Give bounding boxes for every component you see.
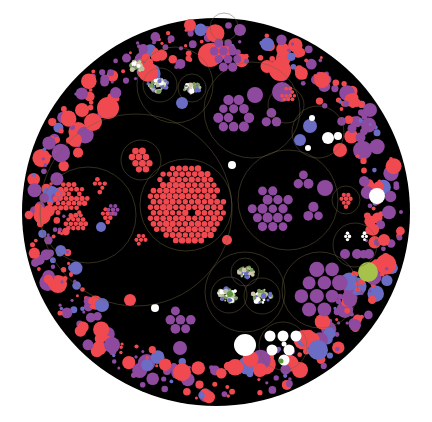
red-dot [214, 199, 220, 205]
outer-bubble [42, 217, 47, 222]
red-dot [284, 87, 288, 91]
white-bubble [265, 331, 276, 342]
outer-bubble [151, 32, 161, 42]
red-dot [208, 210, 214, 216]
outer-bubble [194, 24, 207, 37]
outer-bubble [291, 64, 297, 70]
outer-bubble [349, 93, 358, 102]
white-bubble [309, 115, 315, 121]
red-dot [136, 166, 142, 172]
outer-bubble [348, 124, 357, 133]
outer-bubble [227, 359, 244, 376]
outer-bubble [76, 294, 79, 297]
red-dot [189, 166, 194, 171]
outer-bubble [288, 377, 292, 381]
red-dot [160, 193, 166, 199]
outer-bubble [188, 30, 194, 36]
red-dot [290, 97, 294, 101]
purple-dot [278, 204, 287, 213]
red-dot [195, 210, 201, 216]
red-dot [201, 188, 207, 194]
mixed-dot [156, 89, 161, 94]
red-dot [101, 212, 105, 216]
green-bubble [279, 359, 284, 364]
white-dot [348, 235, 352, 239]
outer-bubble [54, 217, 61, 224]
red-dot [79, 196, 84, 201]
mixed-dot [234, 297, 236, 299]
red-dot [76, 217, 81, 222]
red-dot [72, 182, 77, 187]
purple-dot [318, 303, 332, 317]
red-dot [141, 234, 145, 238]
loose-bubble [378, 234, 390, 246]
purple-dot [219, 47, 228, 56]
red-dot [77, 192, 82, 197]
purple-dot [109, 204, 113, 208]
loose-bubble [95, 298, 109, 312]
outer-bubble [121, 69, 125, 73]
red-dot [201, 177, 207, 183]
red-dot [179, 204, 185, 210]
purple-dot [239, 122, 249, 132]
red-dot [195, 165, 201, 171]
red-dot [170, 232, 176, 238]
purple-dot [107, 208, 111, 212]
red-dot [179, 215, 185, 221]
mixed-dot [196, 84, 198, 86]
loose-bubble [104, 337, 120, 353]
purple-dot [234, 95, 244, 105]
outer-bubble [58, 310, 63, 315]
outer-bubble [265, 381, 268, 384]
purple-dot [113, 204, 117, 208]
outer-bubble [374, 129, 381, 136]
purple-dot [233, 55, 241, 63]
outer-bubble [335, 318, 338, 321]
red-dot [63, 205, 68, 210]
red-dot [176, 210, 181, 215]
red-dot [205, 216, 210, 221]
red-dot [154, 215, 160, 221]
purple-dot [219, 122, 228, 131]
red-dot [68, 221, 73, 226]
red-dot [154, 194, 159, 199]
red-dot [170, 199, 176, 205]
white-dot [365, 235, 368, 238]
outer-bubble [319, 59, 323, 63]
purple-dot [224, 55, 233, 64]
white-bubble [291, 331, 302, 342]
red-dot [192, 193, 198, 199]
purple-dot [309, 262, 324, 277]
red-dot [79, 213, 83, 217]
purple-dot [229, 122, 239, 132]
outer-bubble [112, 359, 117, 364]
red-dot [80, 187, 84, 191]
outer-bubble [321, 363, 327, 369]
outer-bubble [117, 367, 120, 370]
purple-bubble [352, 249, 362, 259]
mixed-dot [185, 85, 187, 87]
red-dot [291, 90, 295, 94]
red-dot [348, 197, 352, 201]
mixed-dot [270, 295, 272, 297]
outer-bubble [360, 128, 368, 136]
mixed-dot [257, 289, 261, 293]
red-dot [198, 237, 204, 243]
purple-dot [299, 171, 308, 180]
red-dot [64, 196, 69, 201]
outer-bubble [200, 40, 204, 44]
red-dot [132, 160, 138, 166]
red-dot [170, 166, 175, 171]
outer-bubble [359, 118, 363, 122]
loose-bubble [75, 103, 89, 117]
red-dot [288, 87, 292, 91]
mixed-dot [195, 90, 197, 92]
red-dot [143, 154, 150, 161]
outer-bubble [334, 308, 341, 315]
outer-bubble [261, 37, 275, 51]
red-dot [74, 205, 79, 210]
red-dot [56, 201, 61, 206]
red-dot [208, 188, 214, 194]
red-dot [183, 221, 189, 227]
red-dot [176, 188, 182, 194]
